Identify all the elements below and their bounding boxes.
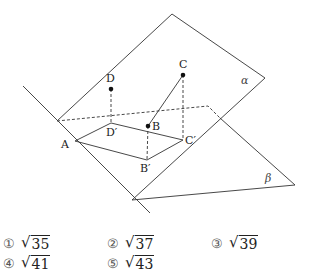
option-2[interactable]: ② √37 xyxy=(107,234,154,252)
option-number: ⑤ xyxy=(107,256,119,271)
option-3[interactable]: ③ √39 xyxy=(211,234,258,252)
option-1[interactable]: ① √35 xyxy=(3,234,50,252)
point-b xyxy=(146,124,151,129)
point-d xyxy=(109,87,114,92)
option-number: ② xyxy=(107,236,119,251)
segment-bc xyxy=(148,75,183,126)
label-b: B xyxy=(152,120,160,133)
sqrt-expression: √43 xyxy=(125,254,154,272)
option-number: ① xyxy=(3,236,15,251)
point-c xyxy=(181,73,186,78)
sqrt-expression: √35 xyxy=(21,234,50,252)
sqrt-expression: √41 xyxy=(21,254,50,272)
sqrt-expression: √37 xyxy=(125,234,154,252)
intersection-line xyxy=(23,86,150,213)
label-c: C xyxy=(179,58,187,71)
option-4[interactable]: ④ √41 xyxy=(3,254,50,272)
option-number: ③ xyxy=(211,236,223,251)
label-d-prime: D′ xyxy=(106,126,118,139)
sqrt-expression: √39 xyxy=(229,234,258,252)
label-alpha: α xyxy=(241,74,249,87)
label-a: A xyxy=(60,138,70,151)
label-beta: β xyxy=(264,172,271,185)
option-5[interactable]: ⑤ √43 xyxy=(107,254,154,272)
option-number: ④ xyxy=(3,256,15,271)
label-c-prime: C′ xyxy=(185,134,196,147)
label-d: D xyxy=(106,72,115,85)
geometry-figure: D C B A D′ C′ B′ α β xyxy=(0,0,313,215)
label-b-prime: B′ xyxy=(140,162,151,175)
plane-beta-hidden-edge xyxy=(57,106,220,121)
